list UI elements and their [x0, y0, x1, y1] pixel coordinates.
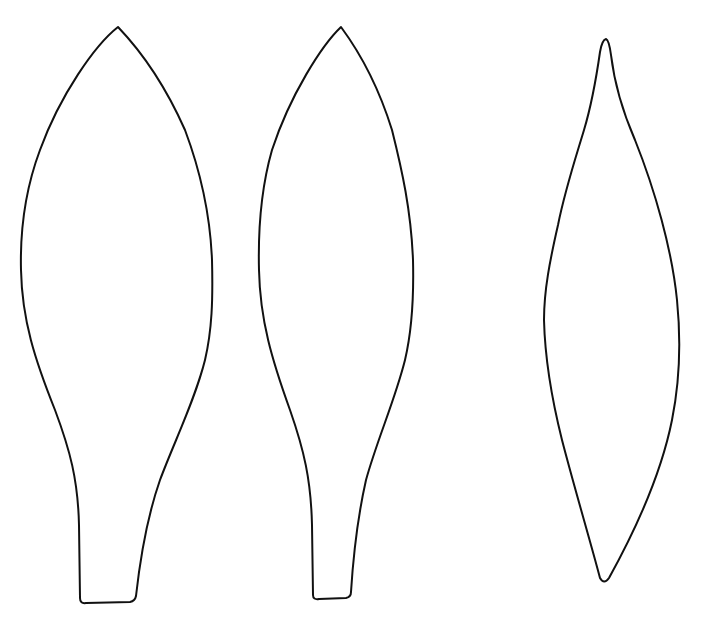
leaf-templates-drawing	[0, 0, 711, 618]
leaf-petal-left-outline	[21, 27, 212, 603]
leaf-petal-right-outline	[544, 39, 679, 582]
image-canvas	[0, 0, 711, 618]
leaf-petal-middle-outline	[259, 27, 413, 599]
